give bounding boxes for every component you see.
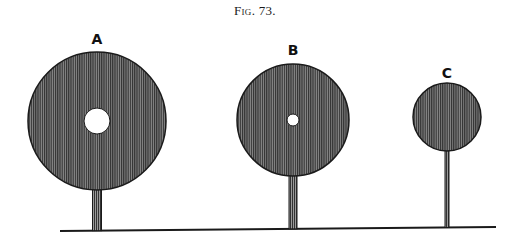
disc-b: B: [237, 42, 349, 229]
disc-face: [413, 83, 481, 151]
disc-stem: [445, 149, 449, 227]
disc-label: A: [92, 31, 103, 47]
figure-illustration: ABC: [0, 0, 510, 232]
disc-hole: [287, 114, 299, 126]
disc-hole: [84, 108, 110, 134]
disc-a: A: [28, 31, 166, 231]
disc-stem: [93, 188, 102, 231]
ground-line: [60, 227, 496, 231]
disc-label: B: [288, 42, 299, 58]
disc-label: C: [442, 65, 452, 81]
disc-stem: [289, 174, 297, 229]
disc-c: C: [413, 65, 481, 227]
